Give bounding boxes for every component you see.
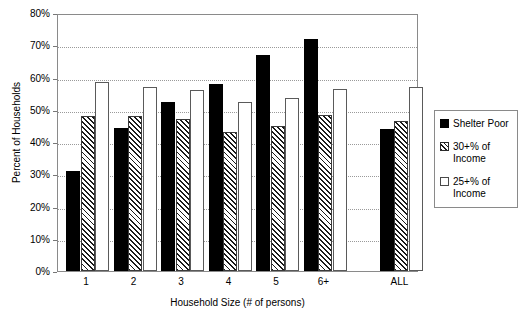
bar-twentyfive — [409, 87, 423, 271]
bar-group — [114, 15, 157, 271]
bar-group — [304, 15, 347, 271]
chart-legend: Shelter Poor30+% of Income25+% of Income — [434, 110, 518, 208]
bar-group — [256, 15, 299, 271]
bar-thirty — [128, 116, 142, 271]
x-tick-label: 6+ — [294, 276, 354, 287]
legend-item-label: Shelter Poor — [453, 118, 509, 130]
legend-item-label: 30+% of Income — [453, 141, 490, 165]
bar-shelter — [256, 55, 270, 271]
bar-twentyfive — [333, 89, 347, 271]
legend-item: 25+% of Income — [440, 176, 512, 200]
bar-twentyfive — [285, 98, 299, 271]
bar-group — [380, 15, 423, 271]
bar-group — [161, 15, 204, 271]
y-tick-label: 30% — [6, 170, 50, 180]
bar-twentyfive — [238, 102, 252, 271]
bar-thirty — [318, 115, 332, 271]
empty-square-swatch — [440, 177, 449, 186]
bar-chart: Percent of Households 0%10%20%30%40%50%6… — [0, 0, 526, 328]
y-tick-label: 80% — [6, 9, 50, 19]
bar-thirty — [81, 116, 95, 271]
y-tick-label: 20% — [6, 203, 50, 213]
y-tick-mark — [53, 272, 57, 273]
bar-shelter — [114, 128, 128, 272]
legend-item-label: 25+% of Income — [453, 176, 490, 200]
filled-black-square-swatch — [440, 119, 449, 128]
x-axis-title: Household Size (# of persons) — [57, 297, 418, 308]
bar-shelter — [161, 102, 175, 271]
bar-twentyfive — [143, 87, 157, 271]
bar-group — [209, 15, 252, 271]
bar-shelter — [304, 39, 318, 271]
x-tick-label: ALL — [370, 276, 430, 287]
legend-item: Shelter Poor — [440, 118, 512, 130]
y-tick-label: 10% — [6, 235, 50, 245]
bar-shelter — [380, 129, 394, 271]
bar-thirty — [176, 119, 190, 271]
bar-shelter — [209, 84, 223, 271]
bar-shelter — [66, 171, 80, 271]
bar-group — [66, 15, 109, 271]
plot-area — [57, 14, 418, 272]
bar-thirty — [271, 126, 285, 271]
y-tick-label: 40% — [6, 138, 50, 148]
bar-thirty — [223, 132, 237, 271]
bar-twentyfive — [190, 90, 204, 271]
legend-item: 30+% of Income — [440, 141, 512, 165]
bar-twentyfive — [95, 82, 109, 271]
y-tick-label: 50% — [6, 106, 50, 116]
y-tick-label: 0% — [6, 267, 50, 277]
y-tick-label: 60% — [6, 74, 50, 84]
bar-thirty — [394, 121, 408, 271]
y-tick-label: 70% — [6, 41, 50, 51]
hatched-square-swatch — [440, 142, 449, 151]
